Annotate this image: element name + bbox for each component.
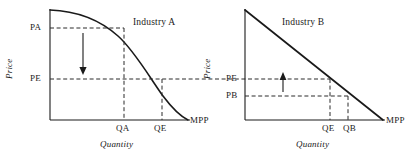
economics-diagram: Industry A PA PE QA QE MPP Price Quantit… (0, 0, 420, 159)
curve-label-mpp-b: MPP (386, 116, 405, 125)
quantity-tick-label-qe-a: QE (154, 124, 166, 133)
price-decrease-arrow (79, 33, 86, 75)
diagram-canvas (0, 0, 420, 159)
quantity-tick-label-qb: QB (343, 124, 356, 133)
x-axis-label-industry-a: Quantity (100, 140, 133, 149)
y-axis-label-industry-b: Price (203, 59, 212, 80)
price-tick-label-pe-a: PE (30, 74, 41, 83)
curve-label-mpp-a: MPP (190, 116, 209, 125)
y-axis-label-industry-a: Price (5, 59, 14, 80)
quantity-tick-label-qa: QA (116, 124, 129, 133)
panel-title-industry-a: Industry A (133, 18, 175, 28)
price-increase-arrow (280, 72, 287, 92)
price-tick-label-pa: PA (30, 23, 41, 32)
price-tick-label-pe-b: PE (226, 74, 237, 83)
quantity-tick-label-qe-b: QE (322, 124, 334, 133)
panel-title-industry-b: Industry B (282, 18, 324, 28)
price-tick-label-pb: PB (226, 91, 237, 100)
x-axis-label-industry-b: Quantity (296, 140, 329, 149)
